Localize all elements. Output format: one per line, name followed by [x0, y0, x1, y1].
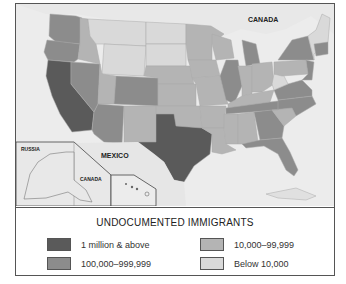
legend-title: UNDOCUMENTED IMMIGRANTS — [16, 217, 334, 228]
legend-item-10k-99k: 10,000–99,999 — [200, 238, 294, 251]
label-canada-main: CANADA — [248, 16, 278, 23]
map-legend: UNDOCUMENTED IMMIGRANTS 1 million & abov… — [16, 207, 334, 276]
legend-swatch-below-10k — [200, 257, 224, 270]
label-canada-inset: CANADA — [80, 176, 102, 182]
legend-item-100k-999k: 100,000–999,999 — [47, 257, 151, 270]
legend-swatch-100k — [47, 257, 71, 270]
label-russia: RUSSIA — [21, 146, 40, 152]
legend-swatch-1-million — [47, 238, 71, 251]
us-states-map — [16, 4, 334, 206]
us-map: CANADA RUSSIA MEXICO CANADA — [16, 4, 334, 206]
legend-item-below-10k: Below 10,000 — [200, 257, 289, 270]
legend-swatch-10k — [200, 238, 224, 251]
map-figure: CANADA RUSSIA MEXICO CANADA UNDOCUMENTED… — [15, 3, 335, 276]
legend-item-1-million-above: 1 million & above — [47, 238, 150, 251]
label-mexico: MEXICO — [101, 152, 129, 159]
